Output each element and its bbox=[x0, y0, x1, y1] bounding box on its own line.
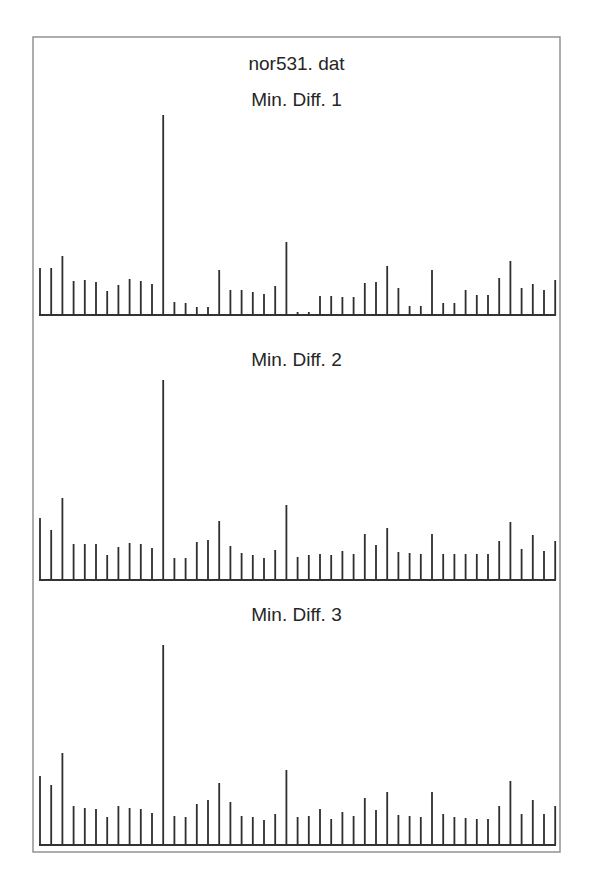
panel-title: Min. Diff. 1 bbox=[251, 89, 341, 110]
bar-series bbox=[40, 645, 555, 845]
figure-title: nor531. dat bbox=[248, 53, 345, 74]
panel-min-diff-1: Min. Diff. 1 bbox=[39, 89, 556, 315]
figure-page: nor531. dat Min. Diff. 1 Min. Diff. 2 Mi… bbox=[0, 0, 589, 894]
panel-min-diff-3: Min. Diff. 3 bbox=[39, 604, 556, 845]
figure-frame bbox=[33, 37, 560, 852]
figure-canvas: nor531. dat Min. Diff. 1 Min. Diff. 2 Mi… bbox=[0, 0, 589, 894]
bar-series bbox=[40, 115, 555, 315]
panel-title: Min. Diff. 3 bbox=[251, 604, 341, 625]
panel-min-diff-2: Min. Diff. 2 bbox=[39, 349, 556, 580]
bar-series bbox=[40, 380, 555, 580]
panel-title: Min. Diff. 2 bbox=[251, 349, 341, 370]
